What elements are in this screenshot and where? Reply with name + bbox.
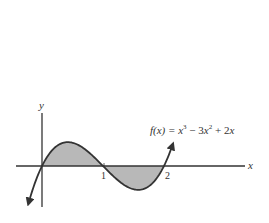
formula-lhs: f(x) =: [150, 124, 178, 136]
formula-mid: − 3: [187, 124, 204, 136]
y-axis-label: y: [39, 100, 44, 111]
function-formula: f(x) = x3 − 3x2 + 2x: [150, 124, 234, 136]
formula-var: x: [229, 124, 234, 136]
plot-canvas: [0, 0, 269, 223]
formula-tail: + 2: [212, 124, 229, 136]
x-tick-label-1: 1: [101, 171, 106, 181]
x-tick-label-2: 2: [165, 171, 170, 181]
x-axis-label: x: [248, 160, 253, 171]
